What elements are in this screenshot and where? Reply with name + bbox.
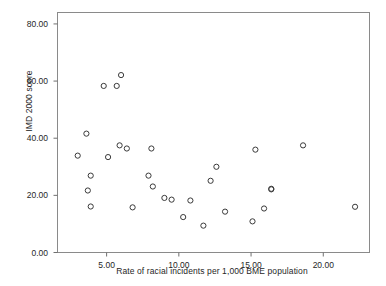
x-axis-title: Rate of racial incidents per 1,000 BME p…: [57, 266, 367, 276]
plot-canvas: [0, 0, 386, 286]
scatter-chart: 0.0020.0040.0060.0080.00 5.0010.0015.002…: [0, 0, 386, 286]
y-axis-tick-labels: 0.0020.0040.0060.0080.00: [0, 0, 48, 286]
plot-frame: [58, 13, 370, 253]
y-tick-label: 40.00: [6, 133, 48, 143]
y-tick-label: 20.00: [6, 190, 48, 200]
y-tick-label: 60.00: [6, 76, 48, 86]
y-tick-label: 80.00: [6, 19, 48, 29]
